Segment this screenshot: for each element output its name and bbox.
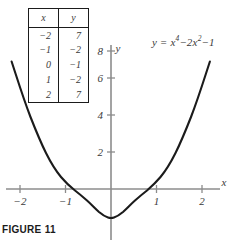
cell-x: −1 — [29, 42, 59, 57]
x-axis-label: x — [221, 176, 227, 188]
equation-equals: = — [160, 36, 167, 48]
column-header-y: y — [59, 9, 89, 27]
equation-annotation: y = x4−2x2−1 — [152, 36, 215, 48]
cell-x: 2 — [29, 87, 59, 102]
y-tick-label-8: 8 — [98, 45, 104, 57]
table-row: 2 7 — [29, 87, 88, 102]
y-tick-label-6: 6 — [98, 72, 104, 84]
cell-y: 7 — [59, 87, 89, 102]
cell-x: 1 — [29, 72, 59, 87]
cell-y: 7 — [59, 27, 89, 42]
x-tick-label-minus2: −2 — [14, 195, 27, 207]
table-row: −2 7 — [29, 27, 88, 42]
table-row: −1 −2 — [29, 42, 88, 57]
y-tick-label-2: 2 — [98, 146, 104, 158]
figure-container: −2 −1 1 2 2 4 6 8 x y y = x4−2x2−1 x y — [0, 0, 235, 241]
cell-x: −2 — [29, 27, 59, 42]
x-tick-label-2: 2 — [199, 195, 205, 207]
equation-term3: 1 — [209, 36, 215, 48]
y-tick-label-4: 4 — [98, 109, 104, 121]
equation-operator-2: − — [202, 36, 209, 48]
values-table-body: −2 7 −1 −2 0 −1 1 −2 2 7 — [29, 27, 88, 102]
cell-y: −2 — [59, 42, 89, 57]
table-row: 1 −2 — [29, 72, 88, 87]
table-header-row: x y — [29, 9, 88, 27]
cell-x: 0 — [29, 57, 59, 72]
equation-lhs: y — [152, 36, 157, 48]
x-tick-label-minus1: −1 — [59, 195, 72, 207]
values-table-grid: x y −2 7 −1 −2 0 −1 1 −2 — [29, 9, 88, 102]
x-tick-label-1: 1 — [154, 195, 160, 207]
column-header-x: x — [29, 9, 59, 27]
equation-operator-1: − — [179, 36, 186, 48]
values-table-head: x y — [29, 9, 88, 27]
cell-y: −2 — [59, 72, 89, 87]
figure-caption: FIGURE 11 — [2, 224, 56, 235]
values-table: x y −2 7 −1 −2 0 −1 1 −2 — [28, 8, 89, 103]
table-row: 0 −1 — [29, 57, 88, 72]
y-axis-label: y — [115, 42, 121, 54]
cell-y: −1 — [59, 57, 89, 72]
